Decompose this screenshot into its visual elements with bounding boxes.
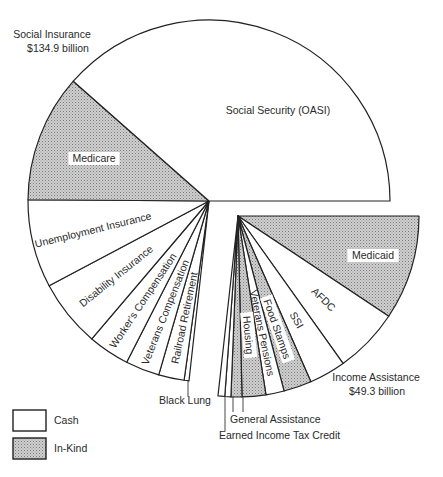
legend-label-cash: Cash [54,414,79,426]
income-assistance-title: Income Assistance [332,371,420,383]
income-assistance-total: $49.3 billion [349,385,405,397]
legend-label-in-kind: In-Kind [54,442,87,454]
slice-label-medicare: Medicare [72,152,115,164]
eitc-label: Earned Income Tax Credit [219,429,340,441]
legend-swatch-in-kind [13,438,46,459]
slice-label-social-security-oasi: Social Security (OASI) [226,104,330,116]
income-assistance-exploded-wedge [218,216,419,397]
general-assistance-label: General Assistance [230,413,321,425]
social-insurance-total: $134.9 billion [27,42,89,54]
slice-label-medicaid: Medicaid [352,249,394,261]
legend: Cash In-Kind [13,410,87,459]
legend-swatch-cash [13,410,46,431]
social-insurance-title: Social Insurance [13,28,91,40]
pie-chart: MedicaidAFDCSSIFood StampsVeterans Pensi… [0,0,443,477]
black-lung-label: Black Lung [159,394,211,406]
